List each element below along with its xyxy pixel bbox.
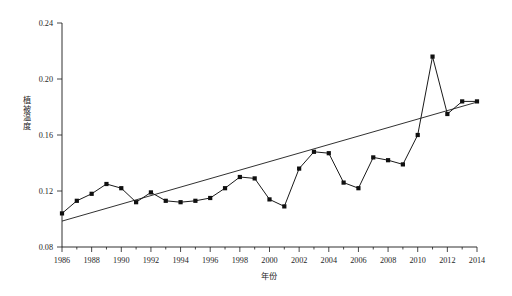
x-tick-label: 1990 [113, 256, 129, 265]
data-point-marker [327, 151, 331, 155]
y-tick-group: 0.080.120.160.200.24 [39, 19, 62, 252]
x-tick-label: 2004 [321, 256, 337, 265]
x-tick-label: 1998 [232, 256, 248, 265]
plot-canvas: 0.080.120.160.200.24 1986198819901992199… [0, 0, 512, 296]
data-markers-group [60, 55, 479, 216]
data-point-marker [297, 167, 301, 171]
x-tick-label: 1992 [143, 256, 159, 265]
data-point-marker [104, 182, 108, 186]
x-tick-label: 1986 [54, 256, 70, 265]
x-tick-label: 1996 [202, 256, 218, 265]
data-line [62, 57, 477, 214]
data-point-marker [371, 155, 375, 159]
axes-group [62, 23, 477, 247]
data-point-marker [208, 196, 212, 200]
data-point-marker [267, 197, 271, 201]
trend-line-group [62, 102, 477, 221]
data-point-marker [60, 211, 64, 215]
x-axis-title: 年份 [261, 271, 277, 281]
data-point-marker [238, 175, 242, 179]
x-tick-label: 1988 [83, 256, 99, 265]
data-point-marker [282, 204, 286, 208]
data-point-marker [119, 186, 123, 190]
x-tick-label: 2000 [261, 256, 277, 265]
data-point-marker [134, 200, 138, 204]
y-tick-label: 0.16 [39, 131, 53, 140]
data-point-marker [401, 162, 405, 166]
data-point-marker [193, 199, 197, 203]
data-point-marker [342, 181, 346, 185]
data-point-marker [356, 186, 360, 190]
x-tick-label: 2014 [469, 256, 485, 265]
y-tick-label: 0.20 [39, 75, 53, 84]
data-point-marker [460, 99, 464, 103]
x-tick-label: 2002 [291, 256, 307, 265]
data-point-marker [223, 186, 227, 190]
chart-figure: 植被温度 0.080.120.160.200.24 19861988199019… [0, 0, 512, 296]
x-tick-label: 2006 [350, 256, 366, 265]
x-tick-label: 2012 [439, 256, 455, 265]
data-point-marker [90, 192, 94, 196]
data-point-marker [312, 150, 316, 154]
data-point-marker [430, 55, 434, 59]
data-point-marker [445, 112, 449, 116]
y-tick-label: 0.08 [39, 243, 53, 252]
x-tick-label: 1994 [172, 256, 188, 265]
data-point-marker [75, 199, 79, 203]
data-point-marker [475, 99, 479, 103]
trend-line [62, 102, 477, 221]
data-series-group [62, 57, 477, 214]
data-point-marker [253, 176, 257, 180]
data-point-marker [178, 200, 182, 204]
x-tick-label: 2008 [380, 256, 396, 265]
x-tick-label: 2010 [410, 256, 426, 265]
y-tick-label: 0.24 [39, 19, 53, 28]
x-tick-group: 1986198819901992199419961998200020022004… [54, 247, 485, 265]
data-point-marker [416, 133, 420, 137]
y-tick-label: 0.12 [39, 187, 53, 196]
data-point-marker [386, 158, 390, 162]
data-point-marker [164, 199, 168, 203]
data-point-marker [149, 190, 153, 194]
